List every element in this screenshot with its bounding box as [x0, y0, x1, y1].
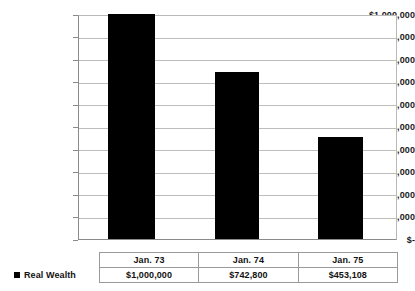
table-cell-value: $742,800: [199, 268, 298, 283]
bar-chart-figure: $1,000,000 $900,000 $800,000 $700,000 $6…: [0, 0, 415, 291]
table-header-row: Jan. 73 Jan. 74 Jan. 75: [0, 253, 398, 268]
table-cell-value: $1,000,000: [99, 268, 198, 283]
table-column-header: Jan. 75: [298, 253, 397, 268]
data-table: Jan. 73 Jan. 74 Jan. 75 Real Wealth $1,0…: [0, 252, 398, 283]
legend-label: Real Wealth: [24, 270, 76, 280]
legend-entry: Real Wealth: [0, 268, 99, 283]
plot-area: [78, 15, 397, 240]
table-corner-cell: [0, 253, 99, 268]
y-axis-tick-mark: [73, 240, 78, 241]
table-cell-value: $453,108: [298, 268, 397, 283]
table-column-header: Jan. 74: [199, 253, 298, 268]
black-square-icon: [14, 272, 20, 278]
table-column-header: Jan. 73: [99, 253, 198, 268]
bar-jan-75: [318, 137, 363, 239]
bar-jan-74: [215, 72, 259, 239]
bar-jan-73: [108, 14, 155, 239]
table-row: Real Wealth $1,000,000 $742,800 $453,108: [0, 268, 398, 283]
